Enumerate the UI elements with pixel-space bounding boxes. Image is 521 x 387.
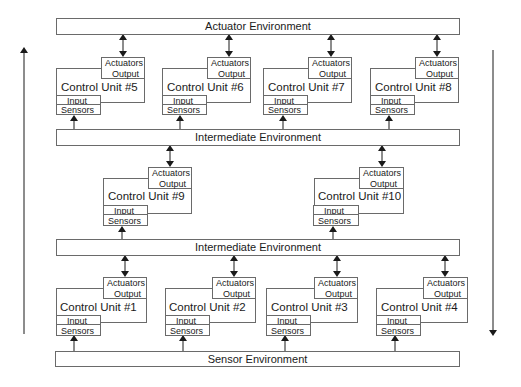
control-unit-title: Control Unit #1 [60, 301, 137, 314]
control-unit-title: Control Unit #9 [108, 190, 185, 203]
output-port: Output [212, 288, 256, 299]
control-unit-title: Control Unit #4 [381, 301, 458, 314]
control-unit-title: Control Unit #3 [271, 301, 348, 314]
output-port: Output [308, 68, 352, 79]
intermediate-environment-upper: Intermediate Environment [56, 129, 460, 146]
sensors-port: Sensors [56, 324, 101, 336]
output-port: Output [359, 178, 404, 189]
sensors-port: Sensors [376, 324, 421, 336]
output-port: Output [148, 178, 192, 189]
control-unit-title: Control Unit #2 [169, 301, 246, 314]
sensors-port: Sensors [56, 104, 101, 115]
output-port: Output [415, 68, 459, 79]
output-port: Output [101, 68, 145, 79]
control-unit-title: Control Unit #6 [167, 81, 244, 94]
intermediate-environment-label: Intermediate Environment [195, 131, 321, 143]
output-port: Output [314, 288, 358, 299]
sensors-port: Sensors [313, 214, 359, 226]
output-port: Output [103, 288, 147, 299]
sensors-port: Sensors [165, 324, 210, 336]
intermediate-environment-lower: Intermediate Environment [56, 239, 460, 256]
sensors-port: Sensors [263, 104, 308, 115]
control-unit-title: Control Unit #8 [375, 81, 452, 94]
output-port: Output [207, 68, 251, 79]
intermediate-environment-label: Intermediate Environment [195, 241, 321, 253]
sensor-environment: Sensor Environment [55, 351, 460, 367]
actuator-environment: Actuator Environment [56, 18, 460, 35]
sensors-port: Sensors [103, 214, 148, 226]
control-unit-title: Control Unit #10 [318, 190, 401, 203]
actuator-environment-label: Actuator Environment [205, 20, 311, 32]
sensors-port: Sensors [370, 104, 415, 115]
output-port: Output [423, 288, 468, 299]
sensor-environment-label: Sensor Environment [208, 353, 308, 365]
control-unit-title: Control Unit #5 [61, 81, 138, 94]
sensors-port: Sensors [162, 104, 207, 115]
control-unit-title: Control Unit #7 [268, 81, 345, 94]
sensors-port: Sensors [266, 324, 311, 336]
